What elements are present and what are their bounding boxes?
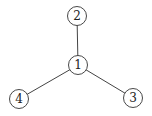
node-1: 1 — [69, 56, 88, 75]
graph-canvas: 1234 — [0, 0, 152, 116]
node-4: 4 — [10, 90, 29, 109]
node-label: 4 — [15, 92, 23, 106]
node-label: 2 — [73, 9, 81, 23]
edge-1-4 — [19, 65, 78, 99]
node-2: 2 — [68, 7, 87, 26]
node-label: 1 — [74, 58, 82, 72]
node-3: 3 — [124, 89, 143, 108]
node-label: 3 — [129, 91, 137, 105]
